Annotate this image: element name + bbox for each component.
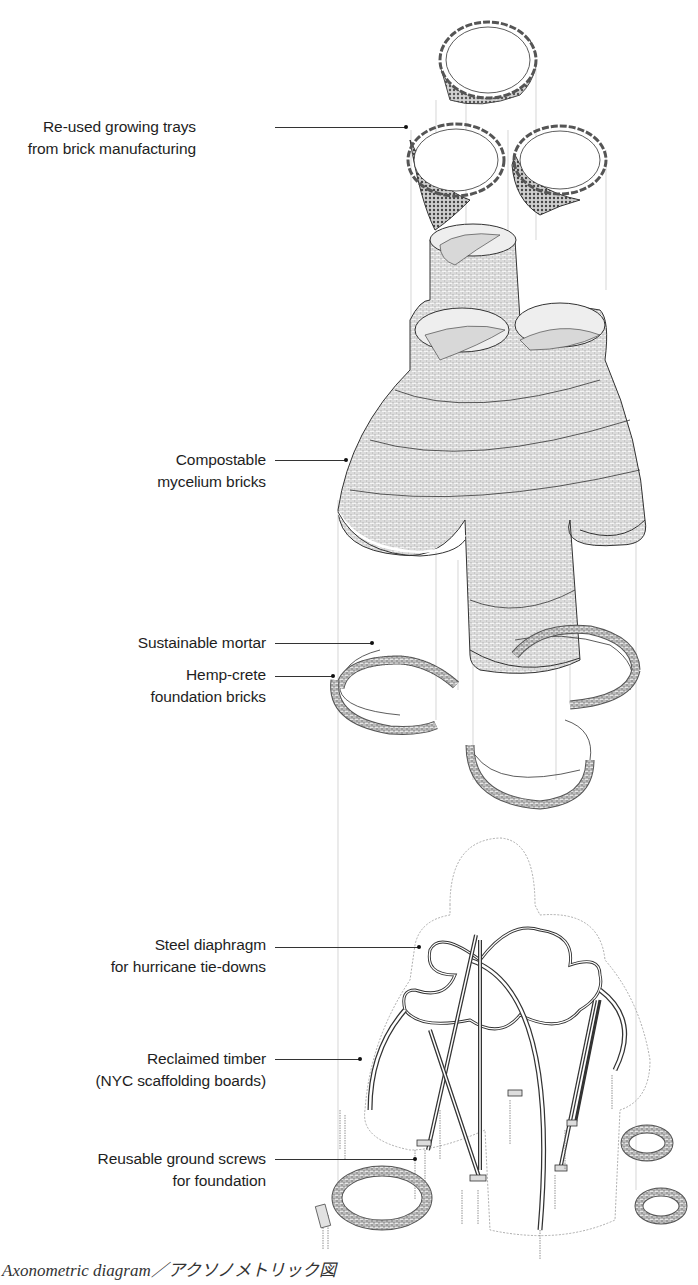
label-line: mycelium bricks	[157, 471, 266, 493]
leader-reclaimed-timber	[275, 1059, 360, 1060]
label-line: Hemp-crete	[151, 664, 266, 686]
label-line: Compostable	[157, 449, 266, 471]
label-sustainable-mortar: Sustainable mortar	[138, 632, 266, 654]
mycelium-tower	[338, 224, 646, 673]
label-line: for foundation	[98, 1170, 266, 1192]
leader-hempcrete-bricks	[275, 676, 333, 677]
label-line: foundation bricks	[151, 686, 266, 708]
label-growing-trays: Re-used growing trays from brick manufac…	[28, 116, 196, 160]
leader-mycelium-bricks	[275, 460, 346, 461]
label-line: Re-used growing trays	[28, 116, 196, 138]
leader-steel-diaphragm	[275, 947, 419, 948]
figure-caption: Axonometric diagram／アクソノメトリック図	[2, 1256, 336, 1281]
steel-timber-frame	[370, 928, 625, 1230]
label-reclaimed-timber: Reclaimed timber (NYC scaffolding boards…	[96, 1048, 266, 1092]
loose-footplate	[315, 1204, 330, 1228]
label-line: from brick manufacturing	[28, 138, 196, 160]
label-line: for hurricane tie-downs	[111, 956, 266, 978]
label-line: (NYC scaffolding boards)	[96, 1070, 266, 1092]
label-line: Reusable ground screws	[98, 1148, 266, 1170]
label-line: Sustainable mortar	[138, 632, 266, 654]
label-mycelium-bricks: Compostable mycelium bricks	[157, 449, 266, 493]
leader-ground-screws	[275, 1159, 415, 1160]
leader-growing-trays	[275, 127, 406, 128]
label-hempcrete-bricks: Hemp-crete foundation bricks	[151, 664, 266, 708]
label-line: Steel diaphragm	[111, 934, 266, 956]
label-steel-diaphragm: Steel diaphragm for hurricane tie-downs	[111, 934, 266, 978]
leader-sustainable-mortar	[275, 643, 372, 644]
label-line: Reclaimed timber	[96, 1048, 266, 1070]
growing-trays	[408, 22, 606, 230]
label-ground-screws: Reusable ground screws for foundation	[98, 1148, 266, 1192]
